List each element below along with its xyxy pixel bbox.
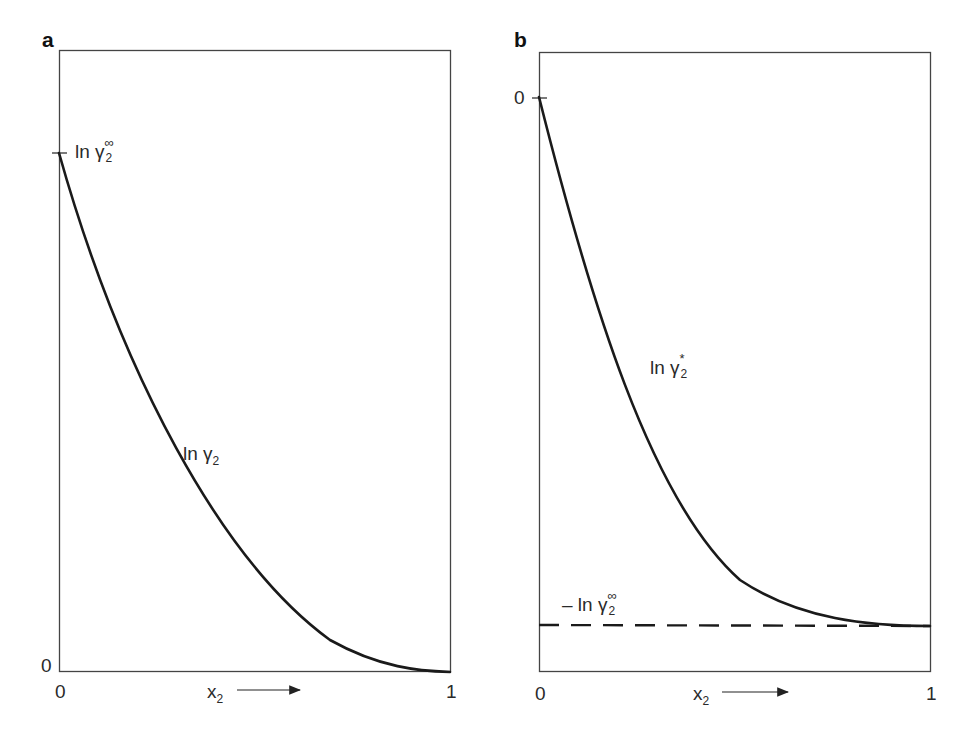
panel-a-y-tick-bottom-label: 0 bbox=[41, 656, 52, 675]
panel-a-x-axis-label: x2 bbox=[207, 682, 223, 705]
panel-b-curve-label-sub: 2 bbox=[681, 368, 688, 380]
panel-a-y-top-ln: ln γ bbox=[75, 141, 105, 162]
panel-b-frame bbox=[540, 53, 931, 672]
panel-a-x-tick-right-label: 1 bbox=[446, 682, 457, 701]
panel-a-curve-label-sub: 2 bbox=[213, 454, 220, 468]
panel-b-asymptote-label: – ln γ∞2 bbox=[562, 595, 621, 615]
panel-a-x-label-sub: 2 bbox=[217, 692, 224, 706]
panel-a-letter: a bbox=[42, 28, 54, 52]
panel-b-x-label-sub: 2 bbox=[703, 694, 710, 708]
panel-b-curve-label-main: ln γ bbox=[650, 357, 680, 378]
panel-b-letter: b bbox=[514, 28, 527, 52]
panel-a-y-top-label: ln γ∞2 bbox=[75, 142, 119, 162]
panel-a-x-label-main: x bbox=[207, 681, 217, 702]
panel-b-asymptote-label-main: – ln γ bbox=[562, 594, 607, 615]
panel-b-x-tick-right-label: 1 bbox=[926, 684, 937, 703]
panel-a-x-tick-left-label: 0 bbox=[55, 682, 66, 701]
panel-b-x-label-main: x bbox=[693, 683, 703, 704]
panel-b-x-tick-left-label: 0 bbox=[535, 684, 546, 703]
panel-b-curve bbox=[539, 97, 930, 626]
panel-a-curve-label-main: ln γ bbox=[183, 443, 213, 464]
panel-b-asymptote-dashed bbox=[539, 625, 930, 626]
panel-b-curve-label-sup: * bbox=[680, 352, 685, 365]
panel-b-asymptote-label-sup: ∞ bbox=[607, 589, 616, 602]
panel-b-asymptote-label-sub: 2 bbox=[608, 605, 615, 617]
panel-b-curve-label: ln γ*2 bbox=[650, 358, 694, 378]
panel-a-y-top-sub: 2 bbox=[106, 152, 113, 164]
panel-a-y-top-sup: ∞ bbox=[105, 136, 114, 149]
panel-a-curve-label: ln γ2 bbox=[183, 444, 219, 467]
panel-b-y-tick-top-label: 0 bbox=[514, 88, 525, 107]
figure-canvas bbox=[0, 0, 958, 735]
panel-b-x-axis-label: x2 bbox=[693, 684, 709, 707]
panel-a-curve bbox=[59, 153, 450, 672]
